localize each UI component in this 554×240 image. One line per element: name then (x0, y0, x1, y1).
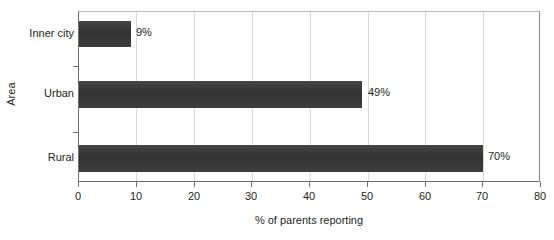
bar-rural (79, 145, 483, 172)
x-axis-tick-label-60: 60 (405, 190, 445, 203)
x-axis-tick-label-0: 0 (58, 190, 98, 203)
x-axis-tick-80 (540, 182, 541, 187)
y-axis-category-labels: Inner city Urban Rural (0, 0, 74, 182)
x-axis-tick-20 (194, 182, 195, 187)
x-axis-tick-label-80: 80 (520, 190, 554, 203)
bar-chart: Area Inner city Urban Rural 9% 49% 70% 0… (0, 0, 554, 240)
y-axis-tick-label-rural: Rural (2, 151, 74, 163)
x-axis-tick-label-10: 10 (116, 190, 156, 203)
x-axis-tick-30 (251, 182, 252, 187)
x-axis-tick-label-50: 50 (347, 190, 387, 203)
x-axis-tick-0 (78, 182, 79, 187)
value-label-inner-city: 9% (136, 26, 152, 38)
gridline-70 (483, 12, 484, 181)
x-axis-tick-label-30: 30 (231, 190, 271, 203)
x-axis-tick-label-40: 40 (289, 190, 329, 203)
x-axis-tick-label-70: 70 (462, 190, 502, 203)
bar-inner-city (79, 21, 131, 47)
y-axis-tick-label-urban: Urban (2, 87, 74, 99)
y-axis-tick-label-inner-city: Inner city (2, 27, 74, 39)
x-axis-tick-60 (425, 182, 426, 187)
value-label-urban: 49% (368, 86, 390, 98)
x-axis-tick-10 (136, 182, 137, 187)
x-axis-tick-label-20: 20 (174, 190, 214, 203)
value-label-rural: 70% (488, 150, 510, 162)
x-axis-tick-70 (482, 182, 483, 187)
x-axis-title: % of parents reporting (78, 214, 540, 226)
bar-urban (79, 81, 362, 108)
x-axis-tick-50 (367, 182, 368, 187)
x-axis-tick-40 (309, 182, 310, 187)
